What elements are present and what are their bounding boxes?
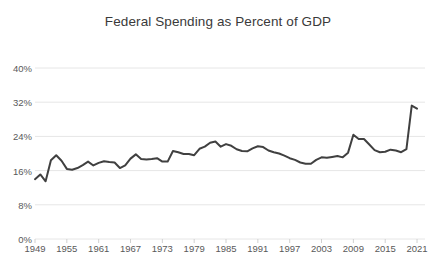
gridlines <box>35 68 425 239</box>
y-axis-tick-label: 40% <box>2 63 32 74</box>
chart-container: Federal Spending as Percent of GDP 0%8%1… <box>0 0 436 267</box>
plot-area <box>0 0 436 267</box>
x-axis-tick-label: 2021 <box>397 243 436 254</box>
y-axis-tick-label: 32% <box>2 97 32 108</box>
y-axis-tick-label: 16% <box>2 165 32 176</box>
y-axis-tick-label: 8% <box>2 199 32 210</box>
y-axis-tick-label: 24% <box>2 131 32 142</box>
series-line <box>35 106 417 182</box>
data-series-group <box>35 106 417 182</box>
